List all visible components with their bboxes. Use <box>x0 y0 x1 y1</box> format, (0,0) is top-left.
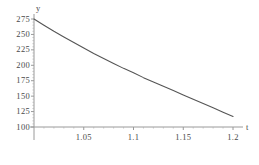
y-axis-tick-label: 125 <box>4 106 30 116</box>
y-axis-tick-label: 225 <box>4 44 30 54</box>
x-axis-label: t <box>246 122 248 132</box>
y-axis-group <box>31 14 34 140</box>
y-axis-tick-label: 275 <box>4 14 30 24</box>
chart-plot: 100125150175200225250275 1.051.11.151.2 … <box>0 0 259 165</box>
x-axis-tick-label: 1.2 <box>219 132 247 142</box>
y-axis-tick-label: 200 <box>4 60 30 70</box>
y-axis-tick-label: 175 <box>4 75 30 85</box>
y-axis-tick-label: 100 <box>4 122 30 132</box>
x-axis-group <box>30 127 243 130</box>
y-axis-label: y <box>36 3 40 13</box>
y-axis-tick-label: 250 <box>4 29 30 39</box>
x-axis-tick-label: 1.05 <box>70 132 98 142</box>
x-axis-tick-label: 1.15 <box>169 132 197 142</box>
data-curve <box>34 19 233 117</box>
x-axis-tick-label: 1.1 <box>120 132 148 142</box>
y-axis-tick-label: 150 <box>4 91 30 101</box>
